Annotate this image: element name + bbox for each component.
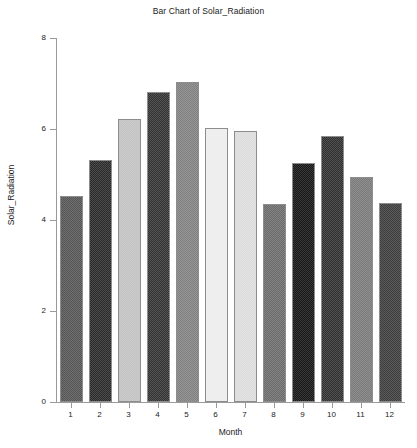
x-axis-tick-label: 9 <box>291 410 315 419</box>
y-axis-tick-label: 8 <box>2 33 46 42</box>
x-axis-tick-label: 10 <box>320 410 344 419</box>
x-axis-tick-label: 12 <box>378 410 402 419</box>
x-axis-tick <box>158 403 159 408</box>
bar <box>60 196 83 402</box>
x-axis-tick <box>129 403 130 408</box>
x-axis-tick <box>274 403 275 408</box>
bar <box>176 82 199 402</box>
bar <box>118 119 141 402</box>
plot-area <box>56 38 404 402</box>
x-axis-tick <box>100 403 101 408</box>
y-axis-title: Solar_Radiation <box>6 105 16 285</box>
x-axis-tick <box>332 403 333 408</box>
x-axis-tick-label: 11 <box>349 410 373 419</box>
x-axis-tick-label: 8 <box>262 410 286 419</box>
x-axis-title: Month <box>56 427 405 437</box>
x-axis-tick-label: 7 <box>233 410 257 419</box>
y-axis-tick-label: 2 <box>2 306 46 315</box>
x-axis-tick <box>71 403 72 408</box>
bar <box>205 128 228 402</box>
x-axis-tick <box>187 403 188 408</box>
bar <box>234 131 257 402</box>
x-axis-tick-label: 1 <box>59 410 83 419</box>
bar-chart-figure: Bar Chart of Solar_Radiation 02468 Solar… <box>0 0 417 448</box>
bar <box>263 204 286 402</box>
x-axis-tick-label: 3 <box>117 410 141 419</box>
x-axis-tick-label: 4 <box>146 410 170 419</box>
x-axis-tick <box>216 403 217 408</box>
x-axis-tick <box>390 403 391 408</box>
bar <box>89 160 112 403</box>
x-axis-line <box>56 402 405 403</box>
bar <box>379 203 402 402</box>
bar <box>147 92 170 402</box>
x-axis-tick <box>303 403 304 408</box>
x-axis-tick-label: 6 <box>204 410 228 419</box>
chart-title: Bar Chart of Solar_Radiation <box>0 6 417 16</box>
bar <box>292 163 315 402</box>
x-axis-tick-label: 2 <box>88 410 112 419</box>
x-axis-tick <box>361 403 362 408</box>
x-axis-tick-label: 5 <box>175 410 199 419</box>
y-axis-tick-label: 0 <box>2 397 46 406</box>
x-axis-tick <box>245 403 246 408</box>
bar <box>321 136 344 402</box>
bar <box>350 177 373 402</box>
y-axis-tick <box>50 402 56 403</box>
